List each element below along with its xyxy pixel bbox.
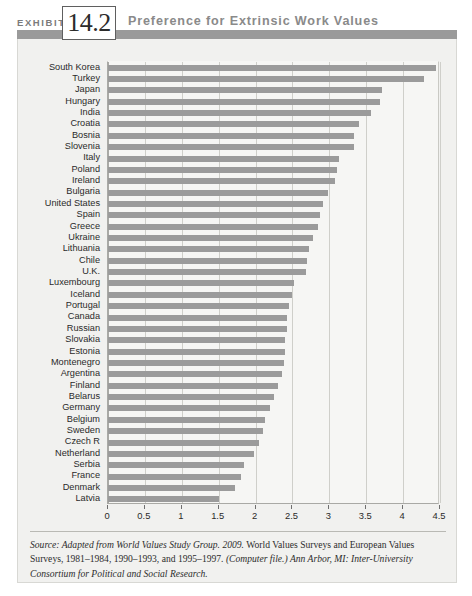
bar	[108, 496, 219, 502]
bar	[108, 349, 285, 355]
source-divider	[30, 531, 446, 532]
category-label: Latvia	[75, 492, 100, 504]
bar	[108, 87, 382, 93]
exhibit-number: 14.2	[67, 10, 111, 36]
x-tick-label: 1.5	[211, 510, 224, 521]
bar	[108, 235, 313, 241]
bar	[108, 326, 287, 332]
x-tick-mark	[255, 505, 256, 509]
bar	[108, 360, 284, 366]
plot-region	[107, 61, 439, 504]
x-tick-mark	[107, 505, 108, 509]
x-tick-label: 0	[104, 510, 109, 521]
x-tick-mark	[439, 505, 440, 509]
bar	[108, 201, 323, 207]
bar	[108, 121, 359, 127]
x-tick-mark	[328, 505, 329, 509]
x-tick-mark	[365, 505, 366, 509]
bar	[108, 440, 259, 446]
x-tick-mark	[291, 505, 292, 509]
bar	[108, 110, 371, 116]
bar	[108, 133, 354, 139]
bar-row	[108, 493, 219, 505]
x-tick-mark	[181, 505, 182, 509]
x-tick-label: 4	[400, 510, 405, 521]
x-tick-label: 3	[326, 510, 331, 521]
bar	[108, 144, 354, 150]
bar	[108, 99, 380, 105]
bar	[108, 246, 309, 252]
x-tick-label: 4.5	[432, 510, 445, 521]
x-tick-label: 0.5	[137, 510, 150, 521]
bar	[108, 212, 320, 218]
chart-area: South KoreaTurkeyJapanHungaryIndiaCroati…	[18, 39, 458, 529]
x-tick-label: 2.5	[285, 510, 298, 521]
exhibit-word-label: EXHIBIT	[17, 17, 66, 28]
bar	[108, 462, 244, 468]
bar	[108, 258, 307, 264]
bar	[108, 337, 285, 343]
bar	[108, 224, 318, 230]
bar	[108, 178, 335, 184]
bar	[108, 292, 292, 298]
exhibit-panel: South KoreaTurkeyJapanHungaryIndiaCroati…	[17, 39, 457, 583]
exhibit-title: Preference for Extrinsic Work Values	[128, 14, 379, 28]
category-axis-labels: South KoreaTurkeyJapanHungaryIndiaCroati…	[18, 61, 104, 504]
bar	[108, 383, 278, 389]
source-note: Source: Adapted from World Values Study …	[30, 538, 448, 581]
x-tick-label: 3.5	[359, 510, 372, 521]
bar	[108, 371, 282, 377]
bar	[108, 485, 235, 491]
bar	[108, 156, 339, 162]
bar-series	[108, 62, 438, 503]
bar	[108, 269, 306, 275]
gridline-4-5	[440, 62, 441, 503]
bar	[108, 417, 265, 423]
bar	[108, 76, 424, 82]
exhibit-number-box: 14.2	[62, 6, 116, 40]
x-tick-mark	[218, 505, 219, 509]
bar	[108, 65, 436, 71]
bar	[108, 280, 294, 286]
x-tick-mark	[402, 505, 403, 509]
x-tick-label: 1	[178, 510, 183, 521]
exhibit-page: EXHIBIT 14.2 Preference for Extrinsic Wo…	[0, 0, 472, 596]
x-tick-mark	[144, 505, 145, 509]
bar	[108, 474, 241, 480]
bar	[108, 428, 263, 434]
bar	[108, 394, 274, 400]
bar	[108, 405, 270, 411]
bar	[108, 315, 287, 321]
bar	[108, 167, 337, 173]
x-tick-label: 2	[252, 510, 257, 521]
value-axis: 00.511.522.533.544.5	[107, 505, 440, 525]
source-part-1: Source: Adapted from World Values Study …	[30, 539, 244, 550]
bar	[108, 451, 254, 457]
bar	[108, 303, 289, 309]
bar	[108, 190, 328, 196]
